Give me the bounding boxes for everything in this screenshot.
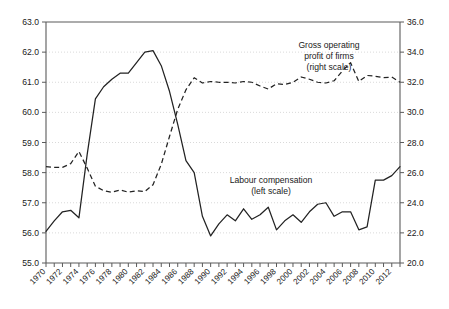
left-axis-ticks [42,22,46,263]
x-axis-tick-label: 1990 [193,267,213,287]
x-axis-tick-labels: 1970197219741976197819801982198419861988… [28,267,393,287]
right-axis-tick-label: 36.0 [407,17,424,27]
left-axis-tick-label: 61.0 [22,77,39,87]
x-axis-tick-label: 1982 [127,267,147,287]
left-axis-tick-label: 59.0 [22,138,39,148]
x-axis-tick-label: 1994 [226,267,246,287]
series-paths [46,51,400,236]
annotation-labour-compensation-line1: Labour compensation [230,175,313,185]
x-axis-tick-label: 2002 [292,267,312,287]
x-axis-tick-label: 2012 [374,267,394,287]
left-axis-tick-label: 62.0 [22,47,39,57]
x-axis-tick-label: 1996 [242,267,262,287]
x-axis-tick-label: 1980 [110,267,130,287]
annotation-gross-operating-line3: (right scale) [307,62,352,72]
right-axis-tick-label: 32.0 [407,77,424,87]
annotation-gross-operating-line1: Gross operating [298,40,359,50]
left-axis-tick-labels: 55.056.057.058.059.060.061.062.063.0 [22,17,39,268]
series-line-labour-compensation [46,51,400,236]
chart-container: 55.056.057.058.059.060.061.062.063.0 20.… [0,0,449,309]
annotation-labour-compensation-line2: (left scale) [251,186,291,196]
x-axis-tick-label: 1970 [28,267,48,287]
x-axis-ticks [46,263,400,267]
x-axis-tick-label: 2010 [357,267,377,287]
right-axis-tick-label: 30.0 [407,107,424,117]
grid-lines [46,52,400,233]
x-axis-tick-label: 1976 [78,267,98,287]
x-axis-tick-label: 1992 [209,267,229,287]
left-axis-tick-label: 63.0 [22,17,39,27]
left-axis-tick-label: 55.0 [22,258,39,268]
line-chart: 55.056.057.058.059.060.061.062.063.0 20.… [0,0,449,309]
right-axis-tick-label: 26.0 [407,168,424,178]
right-axis-tick-label: 20.0 [407,258,424,268]
x-axis-tick-label: 1986 [160,267,180,287]
x-axis-tick-label: 1988 [176,267,196,287]
left-axis-tick-label: 57.0 [22,198,39,208]
x-axis-tick-label: 2004 [308,267,328,287]
x-axis-tick-label: 2000 [275,267,295,287]
x-axis-tick-label: 2008 [341,267,361,287]
right-axis-tick-label: 28.0 [407,138,424,148]
left-axis-tick-label: 58.0 [22,168,39,178]
x-axis-tick-label: 1984 [143,267,163,287]
x-axis-tick-label: 1998 [259,267,279,287]
x-axis-tick-label: 1974 [61,267,81,287]
right-axis-tick-label: 34.0 [407,47,424,57]
right-axis-tick-labels: 20.022.024.026.028.030.032.034.036.0 [407,17,424,268]
right-axis-ticks [400,22,404,263]
right-axis-tick-label: 24.0 [407,198,424,208]
left-axis-tick-label: 56.0 [22,228,39,238]
left-axis-tick-label: 60.0 [22,107,39,117]
annotation-gross-operating-line2: profit of firms [304,51,354,61]
x-axis-tick-label: 1972 [45,267,65,287]
right-axis-tick-label: 22.0 [407,228,424,238]
x-axis-tick-label: 1978 [94,267,114,287]
x-axis-tick-label: 2006 [325,267,345,287]
